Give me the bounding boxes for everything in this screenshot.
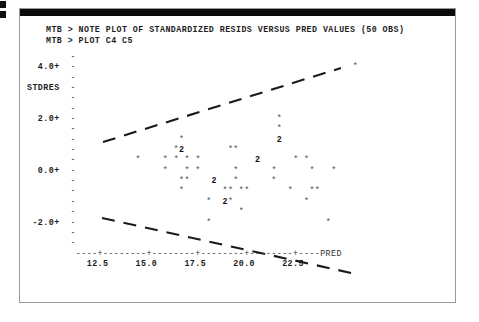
y-axis-tick-mark [27,155,60,164]
plot-row: - [27,93,380,103]
ascii-scatter-plot: - 4.0+ - * - STDRES - - - 2.0+ - * - [27,52,380,269]
data-point-marker: * [184,176,189,185]
y-axis-tick-mark [27,93,60,102]
data-point-marker: * [277,114,282,123]
plot-row-body: - [60,93,87,102]
plot-row-body: - [60,238,87,247]
y-axis-tick-mark [27,176,60,185]
y-axis-tick-mark [27,238,60,247]
data-point-marker: * [206,218,211,227]
y-axis-tick-label: 4.0+ [27,62,60,71]
x-tick-left-pad [27,259,60,268]
data-point-marker: * [293,155,298,164]
y-axis-tick-mark [27,145,60,154]
plot-row: - [27,73,380,83]
plot-row: - [27,104,380,114]
plot-row-body: - * [60,114,283,123]
plot-row: - [27,228,380,238]
y-axis-tick-mark [27,52,60,61]
data-point-marker: * [228,197,233,206]
overplot-count-marker: 2 [255,155,260,164]
data-point-marker: * [233,166,238,175]
plot-row-body: - [60,83,87,92]
data-point-marker: * [195,155,200,164]
y-axis-tick-mark [27,135,60,144]
x-axis-tick-labels: 12.5 15.0 17.5 20.0 22.5 [27,259,380,269]
y-axis-tick-mark [27,186,60,195]
plot-row-body: - * * * * * 2 * * [60,155,310,164]
data-point-marker: * [206,197,211,206]
data-point-marker: * [163,166,168,175]
plot-row: STDRES - [27,83,380,93]
plot-row-body: - * * [60,218,331,227]
y-axis-title: STDRES [27,83,60,92]
overplot-count-marker: 2 [212,176,217,185]
plot-row: - [27,238,380,248]
data-point-marker: * [309,166,314,175]
plot-row-body: - * * * * * * * [60,166,337,175]
data-point-marker: * [271,166,276,175]
plot-row-body: - * ** ** * ** [60,186,321,195]
plot-row: - * [27,207,380,217]
y-axis-tick-mark [27,124,60,133]
plot-row-body: - ** 2 * * [60,176,277,185]
y-axis-tick-mark [27,73,60,82]
plot-row: - * ** ** * ** [27,186,380,196]
data-point-marker: * [304,197,309,206]
y-axis-tick-mark [27,197,60,206]
plot-row: - * 2 [27,135,380,145]
y-axis-tick-label: -2.0+ [27,218,60,227]
data-point-marker: * [326,218,331,227]
plot-row: - *2 ** [27,145,380,155]
scan-artifact-mark [0,1,6,18]
y-axis-tick-mark [27,228,60,237]
command-line-note: MTB > NOTE PLOT OF STANDARDIZED RESIDS V… [46,25,404,34]
data-point-marker: * [179,186,184,195]
x-axis-line: ----+--------+--------+--------+--------… [27,249,380,259]
data-point-marker: * [233,176,238,185]
data-point-marker: * [271,176,276,185]
data-point-marker: * [288,186,293,195]
x-axis-ruler: ----+--------+--------+--------+--------… [60,249,342,258]
x-axis-left-pad [27,249,60,258]
data-point-marker: * [184,166,189,175]
data-point-marker: * [228,186,233,195]
data-point-marker: * [304,155,309,164]
overplot-count-marker: 2 [277,135,282,144]
data-point-marker: * [239,207,244,216]
data-point-marker: * [331,166,336,175]
plot-row-body: - * [60,207,245,216]
data-point-marker: * [353,62,358,71]
plot-row-body: - *2 ** [60,145,239,154]
plot-row: - * [27,124,380,134]
plot-row-body: - * 2* * [60,197,310,206]
data-point-marker: * [179,135,184,144]
y-axis-tick-label: 2.0+ [27,114,60,123]
data-point-marker: * [315,186,320,195]
plot-row-body: - * [60,124,283,133]
y-axis-tick-label: 0.0+ [27,166,60,175]
data-point-marker: * [244,186,249,195]
data-point-marker: * [195,166,200,175]
data-point-marker: * [136,155,141,164]
x-tick-label-strip: 12.5 15.0 17.5 20.0 22.5 [60,259,380,268]
plot-row: - * 2* * [27,197,380,207]
command-line-plot: MTB > PLOT C4 C5 [46,36,133,45]
y-axis-tick-mark [27,207,60,216]
plot-row: 4.0+ - * [27,62,380,72]
data-point-marker: * [233,145,238,154]
plot-row-body: - [60,104,87,113]
data-point-marker: * [185,155,190,164]
y-axis-tick-mark [27,104,60,113]
data-point-marker: * [174,155,179,164]
plot-row: - [27,52,380,62]
plot-row: 0.0+ - * * * * * * * [27,166,380,176]
data-point-marker: * [277,124,282,133]
overplot-count-marker: 2 [179,145,184,154]
plot-row: - ** 2 * * [27,176,380,186]
data-point-marker: * [163,155,168,164]
plot-row-body: - * [60,62,359,71]
plot-row-body: - [60,228,87,237]
plot-row-body: - [60,73,87,82]
plot-row-body: - * 2 [60,135,283,144]
